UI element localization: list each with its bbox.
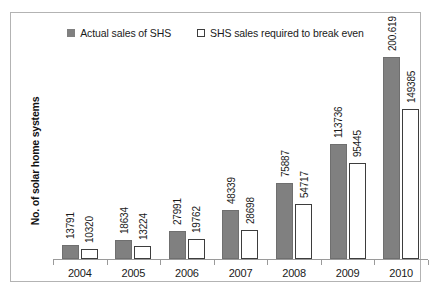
bar-data-label: 19762 [191,206,202,233]
legend-entry-actual-sales: Actual sales of SHS [67,27,171,39]
bar-group: 200.619149385 [374,57,428,259]
bar-data-label: 200.619 [387,16,398,51]
bar-break-even[interactable]: 19762 [188,57,205,259]
bar-actual-sales[interactable]: 18634 [115,57,132,259]
bar-rect[interactable] [241,230,258,259]
bar-data-label: 10320 [84,216,95,243]
bar-group: 2799119762 [160,57,214,259]
bar-group: 1379110320 [53,57,107,259]
bar-data-label: 95445 [352,130,363,157]
bar-data-label: 27991 [172,198,183,225]
bar-rect[interactable] [115,240,132,259]
x-axis-tick-label: 2010 [374,267,428,279]
x-axis-tick [374,260,375,265]
bar-data-label: 149385 [406,70,417,102]
bar-rect[interactable] [402,109,419,259]
x-axis-tick [160,260,161,265]
bar-break-even[interactable]: 149385 [402,57,419,259]
bar-break-even[interactable]: 10320 [81,57,98,259]
plot-area: 1379110320186341322427991197624833928698… [53,57,412,259]
x-axis-tick-label: 2004 [53,267,107,279]
x-axis-tick-label: 2005 [107,267,161,279]
bar-data-label: 13791 [65,212,76,239]
chart-legend: Actual sales of SHS SHS sales required t… [11,27,420,39]
bar-rect[interactable] [349,163,366,259]
bar-rect[interactable] [383,57,400,259]
bar-data-label: 28698 [245,197,256,224]
x-axis-tick [53,260,54,265]
bar-data-label: 48339 [226,178,237,205]
bar-rect[interactable] [134,246,151,259]
legend-label-break-even: SHS sales required to break even [210,27,364,39]
x-axis-ticks [53,260,428,265]
x-axis-tick-label: 2006 [160,267,214,279]
bar-group: 1863413224 [107,57,161,259]
bar-actual-sales[interactable]: 13791 [62,57,79,259]
bar-data-label: 54717 [299,171,310,198]
bar-actual-sales[interactable]: 27991 [169,57,186,259]
x-axis-tick-label: 2008 [267,267,321,279]
bar-rect[interactable] [295,204,312,259]
x-axis-labels: 2004200520062007200820092010 [53,267,428,285]
x-axis-tick [267,260,268,265]
legend-entry-break-even: SHS sales required to break even [197,27,364,39]
x-axis-tick-label: 2007 [214,267,268,279]
bar-data-label: 75887 [280,150,291,177]
bar-break-even[interactable]: 28698 [241,57,258,259]
bar-group: 4833928698 [214,57,268,259]
bar-break-even[interactable]: 95445 [349,57,366,259]
legend-label-actual-sales: Actual sales of SHS [80,27,171,39]
x-axis-tick [428,260,429,265]
bar-rect[interactable] [169,231,186,259]
legend-swatch-filled-square-icon [67,29,75,37]
bar-actual-sales[interactable]: 113736 [330,57,347,259]
bar-break-even[interactable]: 13224 [134,57,151,259]
bar-data-label: 113736 [333,107,344,138]
bar-break-even[interactable]: 54717 [295,57,312,259]
bar-data-label: 18634 [119,207,130,234]
bar-group: 11373695445 [321,57,375,259]
legend-swatch-hollow-square-icon [197,29,205,37]
x-axis-tick [214,260,215,265]
bar-rect[interactable] [276,183,293,259]
bar-rect[interactable] [222,210,239,259]
bar-actual-sales[interactable]: 75887 [276,57,293,259]
bar-data-label: 13224 [138,213,149,240]
bar-group: 7588754717 [267,57,321,259]
y-axis-title: No. of solar home systems [29,81,43,241]
bar-rect[interactable] [188,239,205,259]
bar-actual-sales[interactable]: 48339 [222,57,239,259]
x-axis-tick [321,260,322,265]
bar-rect[interactable] [330,144,347,259]
bar-rect[interactable] [81,249,98,259]
chart-frame: Actual sales of SHS SHS sales required t… [10,12,421,282]
x-axis-tick-label: 2009 [321,267,375,279]
x-axis-tick [107,260,108,265]
bar-actual-sales[interactable]: 200.619 [383,57,400,259]
bar-rect[interactable] [62,245,79,259]
